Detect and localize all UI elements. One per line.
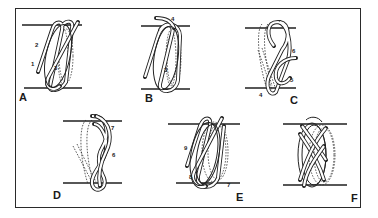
panel-b-drawing: [141, 18, 190, 91]
step-number: 7: [111, 125, 114, 131]
knot-drawings: [0, 0, 378, 218]
step-number: 2: [35, 42, 38, 48]
step-number: 3: [54, 65, 57, 71]
step-number: 9: [184, 145, 187, 151]
step-number: 6: [112, 152, 115, 158]
panel-e-drawing: [168, 118, 240, 188]
step-number: 6: [292, 48, 295, 54]
step-number: 4: [259, 92, 262, 98]
panel-c-drawing: [245, 22, 296, 94]
panel-f-drawing: [283, 117, 347, 187]
step-number: 4: [171, 16, 174, 22]
panel-label-e: E: [236, 192, 243, 203]
step-number: 8: [189, 174, 192, 180]
panel-label-b: B: [145, 93, 153, 104]
panel-a-drawing: [22, 22, 82, 90]
panel-label-c: C: [290, 95, 298, 106]
panel-label-a: A: [19, 92, 27, 103]
step-number: 3: [164, 67, 167, 73]
panel-label-f: F: [351, 193, 358, 204]
panel-label-d: D: [53, 190, 61, 201]
step-number: 7: [227, 182, 230, 188]
knot-diagram: 2 1 3 A 4 3 B 6 5 4 C 7 6 D 9 8 7 E F: [0, 0, 378, 218]
step-number: 1: [31, 61, 34, 67]
step-number: 5: [290, 77, 293, 83]
